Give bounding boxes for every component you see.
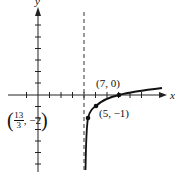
- point-label-5-neg1: (5, −1): [99, 108, 129, 119]
- x-axis-arrow-icon: [159, 92, 167, 98]
- point-label-7-0: (7, 0): [96, 78, 120, 89]
- right-paren: ): [41, 110, 48, 130]
- left-paren: (: [7, 110, 14, 130]
- fraction-denominator: 3: [16, 121, 21, 130]
- y-axis-label: y: [35, 0, 40, 7]
- graph-canvas: [0, 0, 180, 177]
- log-curve: [86, 88, 163, 170]
- y-axis-arrow-icon: [35, 7, 41, 16]
- point-y-value: , −2: [24, 115, 41, 126]
- point-label-13-3-neg2: ( 13 3 , −2 ): [7, 110, 48, 130]
- x-axis-label: x: [170, 90, 175, 101]
- point-5: [94, 104, 99, 109]
- point-13-3: [86, 116, 91, 121]
- fraction: 13 3: [14, 111, 24, 130]
- point-7: [117, 93, 122, 98]
- fraction-numerator: 13: [14, 111, 23, 120]
